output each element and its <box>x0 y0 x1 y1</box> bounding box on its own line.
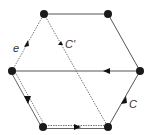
vertex-right <box>136 67 144 75</box>
arrow-c-icon <box>121 96 127 104</box>
vertex-top-left <box>40 10 48 18</box>
vertex-left <box>8 67 16 75</box>
vertex-bottom-right <box>104 123 112 131</box>
hexagon-diagram: e C' C <box>0 0 150 135</box>
arrow-left-down-icon <box>24 96 31 104</box>
arrow-c-prime-icon <box>58 41 63 45</box>
arrow-e-icon <box>24 40 29 47</box>
vertex-top-right <box>104 10 112 18</box>
label-e: e <box>13 42 19 54</box>
arrow-bottom-icon <box>74 124 81 130</box>
vertex-bottom-left <box>39 123 47 131</box>
edge-top-right <box>108 14 140 71</box>
arrow-middle-icon <box>103 68 110 74</box>
label-c-prime: C' <box>65 38 76 50</box>
label-c: C <box>129 98 137 110</box>
